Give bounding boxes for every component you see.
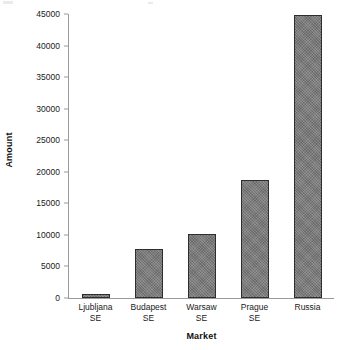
x-axis-tick-label-line1: Ljubljana	[78, 302, 112, 312]
y-axis-tick-label: 0	[55, 294, 60, 303]
y-axis-tick-mark	[64, 266, 68, 267]
y-axis-tick-label: 25000	[36, 136, 60, 145]
y-axis-title-label: Amount	[4, 132, 14, 167]
y-axis-tick-mark	[64, 298, 68, 299]
y-axis-tick-label: 35000	[36, 73, 60, 82]
scan-artifact	[148, 2, 153, 4]
y-axis-tick-labels: 0500010000150002000025000300003500040000…	[18, 0, 64, 300]
y-axis-title: Amount	[0, 0, 18, 300]
y-axis-tick-mark	[64, 234, 68, 235]
y-axis-tick-label: 40000	[36, 41, 60, 50]
y-axis-tick-label: 30000	[36, 104, 60, 113]
x-axis-tick-label-line2: SE	[122, 313, 175, 324]
x-axis-tick-label: Russia	[281, 302, 334, 313]
x-axis-tick-label-line1: Prague	[241, 302, 268, 312]
x-axis-tick-label: BudapestSE	[122, 302, 175, 324]
bar-slot	[175, 14, 228, 298]
y-axis-tick-label: 20000	[36, 168, 60, 177]
x-axis-title: Market	[69, 331, 334, 341]
bar-slot	[281, 14, 334, 298]
x-axis-tick-label-line2: SE	[175, 313, 228, 324]
y-axis-tick-label: 10000	[36, 231, 60, 240]
bar-slot	[69, 14, 122, 298]
plot-area	[69, 14, 334, 298]
x-axis-tick-label: WarsawSE	[175, 302, 228, 324]
x-axis-line	[68, 298, 334, 299]
y-axis-tick-label: 45000	[36, 10, 60, 19]
x-axis-tick-label-line2: SE	[228, 313, 281, 324]
y-axis-tick-mark	[64, 171, 68, 172]
bar[interactable]	[241, 180, 269, 298]
y-axis-tick-mark	[64, 14, 68, 15]
y-axis-tick-mark	[64, 140, 68, 141]
y-axis-tick-mark	[64, 77, 68, 78]
x-axis-tick-label-line1: Budapest	[131, 302, 167, 312]
bar-chart: Amount 050001000015000200002500030000350…	[0, 0, 339, 350]
y-axis-tick-label: 5000	[41, 262, 60, 271]
y-axis-tick-mark	[64, 108, 68, 109]
x-axis-tick-label: LjubljanaSE	[69, 302, 122, 324]
bar[interactable]	[135, 249, 163, 298]
x-axis-tick-label-line2: SE	[69, 313, 122, 324]
x-axis-tick-label: PragueSE	[228, 302, 281, 324]
x-axis-tick-labels: LjubljanaSEBudapestSEWarsawSEPragueSERus…	[69, 302, 334, 332]
x-axis-tick-label-line1: Warsaw	[186, 302, 216, 312]
bar-slot	[122, 14, 175, 298]
bar[interactable]	[188, 234, 216, 298]
y-axis-tick-label: 15000	[36, 199, 60, 208]
y-axis-tick-mark	[64, 203, 68, 204]
bar[interactable]	[294, 15, 322, 298]
y-axis-tick-mark	[64, 45, 68, 46]
bar[interactable]	[82, 294, 110, 298]
x-axis-tick-label-line1: Russia	[295, 302, 321, 312]
bar-slot	[228, 14, 281, 298]
